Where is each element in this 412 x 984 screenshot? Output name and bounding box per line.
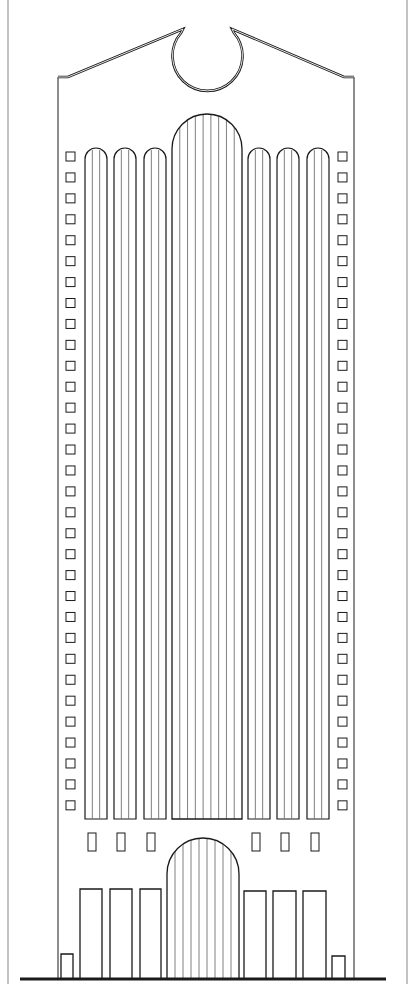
small-door: [61, 954, 73, 979]
square-window-right: [338, 236, 347, 245]
arched-bay: [85, 148, 107, 819]
base-door: [244, 891, 266, 979]
square-window-left: [66, 466, 75, 475]
square-window-left: [66, 654, 75, 663]
square-window-left: [66, 550, 75, 559]
mezzanine-window: [88, 833, 96, 851]
square-window-left: [66, 780, 75, 789]
square-window-right: [338, 445, 347, 454]
bay-outline: [85, 148, 107, 819]
square-window-left: [66, 717, 75, 726]
square-window-left: [66, 487, 75, 496]
square-window-left: [66, 152, 75, 161]
small-door: [332, 956, 345, 979]
mezzanine-window: [281, 833, 289, 851]
bay-outline: [307, 148, 329, 819]
square-window-right: [338, 278, 347, 287]
base-door: [110, 889, 132, 979]
pediment-inner-gap: [58, 29, 354, 91]
square-window-right: [338, 550, 347, 559]
square-window-left: [66, 278, 75, 287]
square-window-left: [66, 529, 75, 538]
arched-bay: [307, 148, 329, 819]
square-window-right: [338, 717, 347, 726]
central-shaft-stripes: [180, 114, 234, 819]
square-window-left: [66, 759, 75, 768]
mezzanine-window: [147, 833, 155, 851]
mezzanine-windows: [88, 833, 319, 851]
square-window-left: [66, 173, 75, 182]
square-window-left: [66, 257, 75, 266]
base-door: [303, 891, 326, 979]
entrance-arch: [167, 838, 239, 979]
square-window-right: [338, 319, 347, 328]
square-window-left: [66, 445, 75, 454]
square-window-left: [66, 675, 75, 684]
square-window-left: [66, 382, 75, 391]
square-window-right: [338, 738, 347, 747]
square-window-right: [338, 759, 347, 768]
arched-bay: [248, 148, 270, 819]
square-window-right: [338, 340, 347, 349]
entrance-arch-stripes: [175, 838, 231, 979]
square-window-right: [338, 257, 347, 266]
square-window-left: [66, 738, 75, 747]
mezzanine-window: [252, 833, 260, 851]
square-window-left: [66, 361, 75, 370]
facade-outline: [58, 77, 354, 979]
square-window-left: [66, 403, 75, 412]
bay-outline: [144, 148, 166, 819]
mezzanine-window: [311, 833, 319, 851]
arched-window-bays: [85, 148, 329, 819]
square-window-right: [338, 215, 347, 224]
square-window-left: [66, 194, 75, 203]
architectural-elevation-drawing: [0, 0, 412, 984]
side-square-windows: [66, 152, 347, 810]
square-window-right: [338, 633, 347, 642]
arched-bay: [114, 148, 136, 819]
base-door: [273, 891, 296, 979]
square-window-right: [338, 173, 347, 182]
square-window-right: [338, 612, 347, 621]
square-window-right: [338, 675, 347, 684]
square-window-right: [338, 696, 347, 705]
broken-pediment: [58, 29, 354, 91]
square-window-left: [66, 612, 75, 621]
square-window-left: [66, 633, 75, 642]
square-window-right: [338, 152, 347, 161]
square-window-right: [338, 529, 347, 538]
square-window-right: [338, 487, 347, 496]
square-window-right: [338, 592, 347, 601]
square-window-left: [66, 424, 75, 433]
square-window-left: [66, 236, 75, 245]
bay-outline: [114, 148, 136, 819]
arched-bay: [277, 148, 299, 819]
square-window-left: [66, 592, 75, 601]
square-window-right: [338, 571, 347, 580]
central-arched-shaft: [172, 114, 242, 819]
base-door: [140, 889, 161, 979]
base-door: [80, 889, 102, 979]
square-window-right: [338, 508, 347, 517]
square-window-right: [338, 382, 347, 391]
square-window-right: [338, 403, 347, 412]
square-window-right: [338, 466, 347, 475]
square-window-right: [338, 194, 347, 203]
square-window-right: [338, 801, 347, 810]
square-window-right: [338, 299, 347, 308]
base-doors: [80, 889, 326, 979]
pediment-outer-line: [58, 29, 354, 91]
square-window-right: [338, 361, 347, 370]
square-window-right: [338, 780, 347, 789]
bay-outline: [248, 148, 270, 819]
central-shaft-outline: [172, 114, 242, 819]
square-window-left: [66, 696, 75, 705]
square-window-left: [66, 801, 75, 810]
mezzanine-window: [117, 833, 125, 851]
building-elevation-svg: [0, 0, 412, 984]
bay-outline: [277, 148, 299, 819]
square-window-left: [66, 571, 75, 580]
square-window-left: [66, 508, 75, 517]
square-window-right: [338, 424, 347, 433]
square-window-left: [66, 299, 75, 308]
